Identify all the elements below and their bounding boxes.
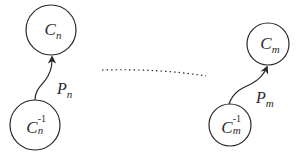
edge-arrow-pn: [35, 57, 52, 100]
node-label-cm-inverse: C-1m: [221, 119, 242, 136]
node-label-cn-inverse: C-1n: [26, 119, 47, 136]
ellipsis-dotted-line: [102, 70, 206, 76]
node-label-cm: Cm: [260, 35, 279, 55]
edge-label-pm: Pm: [256, 90, 274, 109]
edge-label-pn: Pn: [57, 81, 72, 100]
diagram-canvas: Cn C-1n Cm C-1m Pn Pm: [0, 0, 304, 155]
node-label-cn: Cn: [45, 21, 62, 41]
